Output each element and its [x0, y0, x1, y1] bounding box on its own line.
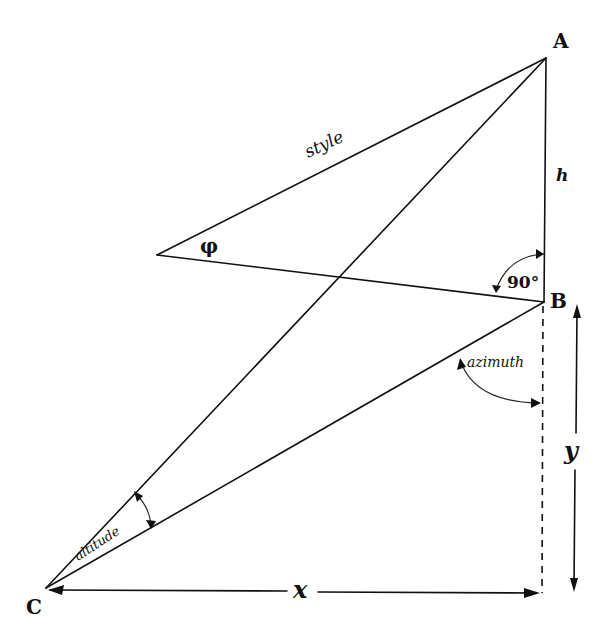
meridian-dashed-line: [542, 306, 543, 593]
x-arrowhead-right-icon: [524, 588, 540, 598]
style-base-line: [157, 255, 544, 302]
shadow-line-BC: [46, 302, 544, 588]
azimuth-label: azimuth: [467, 354, 524, 370]
arc-arrow-icon: [536, 249, 544, 259]
altitude-label: altitude: [71, 523, 122, 563]
x-label: x: [292, 575, 308, 604]
y-arrowhead-up-icon: [573, 304, 581, 318]
style-line: [157, 58, 546, 255]
point-label-C: C: [26, 595, 42, 619]
arc-arrow-icon: [457, 358, 466, 370]
sun-ray-line-AC: [46, 58, 546, 588]
altitude-arc: [134, 491, 156, 529]
style-label: style: [301, 126, 346, 161]
y-arrowhead-down-icon: [570, 578, 578, 592]
h-label: h: [556, 165, 568, 185]
height-line-h: [544, 58, 546, 302]
geometry-lines: [46, 58, 546, 593]
x-arrowhead-left-icon: [48, 585, 64, 595]
altitude-azimuth-diagram: A B C style φ h 90° azimuth altitude x y: [0, 0, 605, 633]
arc-arrow-icon: [492, 285, 501, 293]
point-label-B: B: [550, 289, 567, 313]
arc-arrow-icon: [531, 398, 541, 408]
phi-label: φ: [200, 234, 218, 258]
point-label-A: A: [552, 29, 569, 53]
right-angle-label: 90°: [507, 272, 539, 292]
y-label: y: [563, 436, 580, 465]
arc-arrow-icon: [146, 520, 156, 529]
